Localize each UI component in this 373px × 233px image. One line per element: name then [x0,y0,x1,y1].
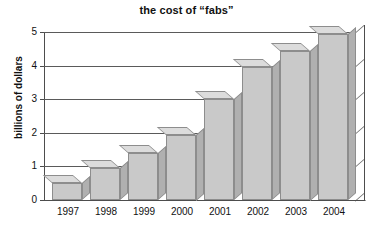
y-tick-mark-1 [40,166,44,167]
bar-chart-figure: the cost of “fabs” billions of dollars [0,0,373,233]
y-tick-label-0: 0 [21,195,37,205]
x-tick-label-2001: 2001 [201,206,239,217]
bar-2001[interactable] [204,99,234,200]
right-wall-rung-4 [355,59,364,68]
bar-front-face [280,51,310,201]
plot-right-wall [356,25,365,200]
bar-side-face [234,92,242,200]
bar-side-face [158,146,166,200]
y-tick-label-2: 2 [21,128,37,138]
y-tick-mark-0 [40,200,44,201]
bar-front-face [318,34,348,200]
x-tick-label-1999: 1999 [125,206,163,217]
y-tick-label-5: 5 [21,27,37,37]
plot-area [44,25,364,201]
y-tick-mark-4 [40,66,44,67]
right-wall-rung-5 [355,25,364,34]
bar-front-face [90,168,120,200]
bar-side-face [196,128,204,200]
bar-front-face [128,153,158,200]
bar-1999[interactable] [128,153,158,200]
right-wall-rung-2 [355,126,364,135]
bar-front-face [204,99,234,200]
bar-side-face [272,60,280,200]
bar-side-face [348,27,356,200]
y-tick-label-1: 1 [21,161,37,171]
bar-2003[interactable] [280,51,310,201]
bar-front-face [52,183,82,200]
x-tick-label-2003: 2003 [277,206,315,217]
bar-1998[interactable] [90,168,120,200]
y-tick-label-4: 4 [21,61,37,71]
y-tick-label-3: 3 [21,94,37,104]
right-wall-rung-3 [355,92,364,101]
x-tick-label-2000: 2000 [163,206,201,217]
right-wall-rung-1 [355,159,364,168]
x-tick-label-2004: 2004 [315,206,353,217]
bar-front-face [166,135,196,201]
chart-title: the cost of “fabs” [0,4,373,16]
gridline-5 [44,32,356,33]
bar-2004[interactable] [318,34,348,200]
bar-front-face [242,67,272,200]
y-tick-mark-3 [40,99,44,100]
bar-side-face [310,44,318,200]
y-tick-mark-2 [40,133,44,134]
bar-2002[interactable] [242,67,272,200]
bar-2000[interactable] [166,135,196,201]
y-tick-mark-5 [40,32,44,33]
x-tick-label-1997: 1997 [49,206,87,217]
bar-1997[interactable] [52,183,82,200]
x-tick-label-1998: 1998 [87,206,125,217]
x-tick-label-2002: 2002 [239,206,277,217]
